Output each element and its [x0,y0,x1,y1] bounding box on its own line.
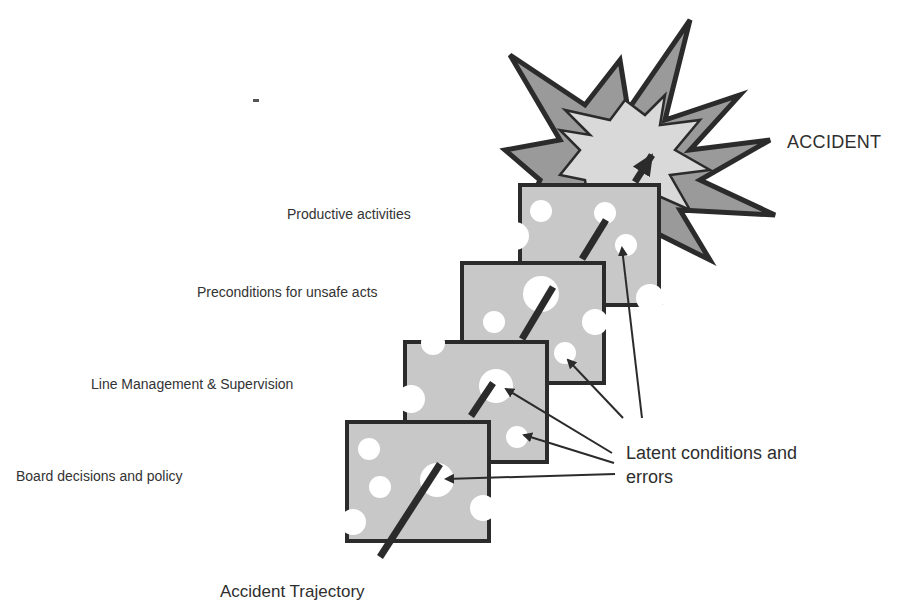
layer-label-board: Board decisions and policy [16,468,183,484]
layer-label-preconditions: Preconditions for unsafe acts [197,284,378,300]
layer-label-line-management: Line Management & Supervision [91,376,293,392]
plate-board-decisions [340,422,496,541]
stray-mark [253,99,259,102]
latent-conditions-label: Latent conditions and errors [626,441,797,489]
latent-conditions-line2: errors [626,465,797,489]
layer-label-productive: Productive activities [287,206,411,222]
accident-label: ACCIDENT [787,132,881,153]
swiss-cheese-diagram [0,0,904,614]
latent-conditions-line1: Latent conditions and [626,441,797,465]
accident-trajectory-label: Accident Trajectory [220,582,365,602]
